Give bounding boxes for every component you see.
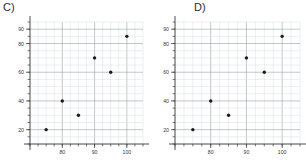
data-point	[227, 114, 230, 117]
data-point	[93, 56, 96, 59]
svg-text:100: 100	[278, 149, 287, 155]
svg-text:20: 20	[163, 127, 169, 133]
panel-c-plot: 80901002040608090	[0, 0, 153, 163]
panel-c: C) 80901002040608090	[0, 0, 153, 163]
data-point	[209, 99, 212, 102]
panel-d: D) 80901002040608090	[153, 0, 306, 163]
svg-text:80: 80	[18, 41, 24, 47]
data-point	[245, 56, 248, 59]
svg-text:90: 90	[92, 149, 98, 155]
svg-text:80: 80	[208, 149, 214, 155]
data-point	[44, 128, 47, 131]
data-point	[109, 71, 112, 74]
data-point	[125, 35, 128, 38]
svg-text:100: 100	[123, 149, 132, 155]
svg-text:60: 60	[18, 69, 24, 75]
svg-text:20: 20	[18, 127, 24, 133]
svg-text:90: 90	[163, 26, 169, 32]
data-point	[77, 114, 80, 117]
data-point	[191, 128, 194, 131]
svg-text:90: 90	[18, 26, 24, 32]
svg-text:90: 90	[244, 149, 250, 155]
data-point	[280, 35, 283, 38]
svg-text:60: 60	[163, 69, 169, 75]
svg-text:40: 40	[18, 98, 24, 104]
svg-text:40: 40	[163, 98, 169, 104]
panel-d-scatter-svg: 80901002040608090	[153, 0, 306, 163]
scatter-plot-pair: C) 80901002040608090 D) 8090100204060809…	[0, 0, 306, 163]
panel-d-plot: 80901002040608090	[153, 0, 306, 163]
data-point	[263, 71, 266, 74]
data-point	[61, 99, 64, 102]
svg-text:80: 80	[59, 149, 65, 155]
panel-c-scatter-svg: 80901002040608090	[0, 0, 153, 163]
svg-text:80: 80	[163, 41, 169, 47]
